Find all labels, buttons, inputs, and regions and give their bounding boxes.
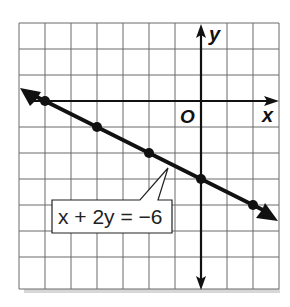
point-neg4-neg1 — [92, 122, 102, 132]
y-axis — [196, 24, 206, 290]
y-axis-label: y — [208, 23, 221, 45]
x-axis — [28, 96, 279, 106]
origin-label: O — [180, 106, 195, 127]
equation-callout: x + 2y = −6 — [52, 168, 172, 233]
line-right-arrow-icon — [256, 203, 278, 221]
point-neg6-0 — [40, 96, 50, 106]
point-0-neg3 — [196, 174, 206, 184]
x-axis-label: x — [261, 104, 274, 126]
point-neg2-neg2 — [144, 148, 154, 158]
equation-label: x + 2y = −6 — [58, 205, 163, 228]
coordinate-plane: y x O x + 2y = −6 — [0, 0, 290, 307]
point-2-neg4 — [248, 200, 258, 210]
line-left-arrow-icon — [20, 88, 41, 106]
grid-shadow — [24, 289, 280, 293]
